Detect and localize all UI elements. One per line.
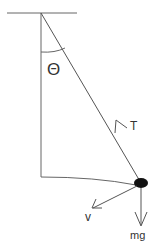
tension-label: T: [130, 119, 138, 133]
angle-label: Θ: [47, 60, 60, 79]
tension-arrow-icon: [115, 120, 127, 133]
swing-path-arc: [41, 177, 136, 185]
weight-label: mg: [130, 229, 145, 241]
velocity-arrowhead-icon: [92, 199, 102, 208]
velocity-label: v: [85, 210, 91, 224]
velocity-arrow-line: [93, 186, 137, 208]
pendulum-diagram: Θ T v mg: [0, 0, 154, 249]
pendulum-string: [41, 13, 141, 183]
